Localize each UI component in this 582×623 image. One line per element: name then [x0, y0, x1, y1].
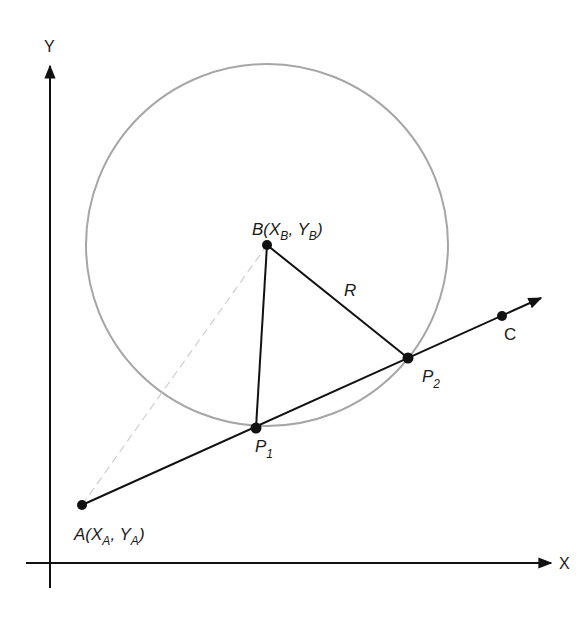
point-b [262, 240, 272, 250]
y-axis-label: Y [44, 38, 55, 55]
label-p2: P2 [422, 367, 440, 391]
point-p1 [251, 423, 262, 434]
label-p1: P1 [255, 437, 273, 461]
point-p2 [403, 353, 414, 364]
dashed-line-a-b [82, 245, 267, 505]
segment-b-p2-radius [267, 245, 408, 358]
x-axis-label: X [559, 555, 570, 572]
label-b: B(XB, YB) [252, 220, 323, 243]
point-c [497, 311, 507, 321]
label-radius-r: R [344, 281, 356, 300]
segment-b-p1 [256, 245, 267, 428]
line-a-c [82, 298, 541, 505]
point-a [77, 500, 87, 510]
label-a: A(XA, YA) [73, 525, 145, 548]
diagram-canvas: Y X B(XB, YB) R A(XA, YA) P1 P2 C [0, 0, 582, 623]
label-c: C [504, 325, 516, 344]
